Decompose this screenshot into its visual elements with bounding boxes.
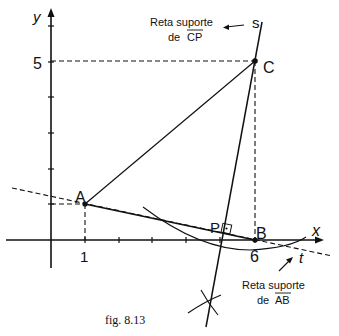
note-s-segment: CP [187, 31, 202, 43]
label-c: C [263, 59, 275, 76]
guide-lines [51, 61, 255, 240]
note-t-line1: Reta suporte [242, 279, 305, 291]
y-axis [48, 8, 55, 268]
label-p: P [210, 219, 220, 236]
segment-ac [85, 61, 255, 204]
segment-ab [85, 204, 255, 240]
x-tick-1: 1 [80, 248, 88, 265]
geometry-figure: y 5 x 1 6 A B C P [0, 0, 339, 336]
point-c [252, 58, 258, 64]
label-a: A [75, 189, 86, 206]
label-s: s [252, 14, 260, 31]
y-axis-label: y [32, 8, 42, 25]
note-t-segment: AB [275, 294, 290, 306]
arrow-head-s [223, 25, 229, 31]
figure-caption: fig. 8.13 [105, 313, 145, 327]
note-t-prefix: de [257, 294, 269, 306]
y-tick-5: 5 [33, 55, 42, 72]
label-b: B [256, 225, 267, 242]
x-axis-label: x [311, 222, 321, 239]
note-s-line1: Reta suporte [150, 16, 213, 28]
right-angle-marker [221, 223, 232, 234]
x-tick-6: 6 [250, 248, 259, 265]
label-t: t [299, 249, 304, 266]
x-axis [6, 237, 324, 244]
note-s-prefix: de [168, 31, 180, 43]
construction-arc-1 [188, 295, 221, 313]
